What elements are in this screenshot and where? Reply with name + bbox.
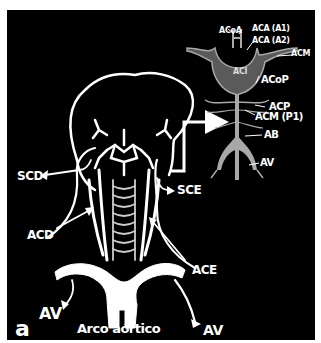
vascular-diagram [7,10,315,340]
panel-letter: a [15,318,30,340]
label-ace: ACE [192,264,217,276]
inset-connector [170,122,207,171]
diagram-frame: ACoA ACA (A1) ACA (A2) ACM ACI ACoP ACP … [7,10,315,340]
label-acm-p1: ACM (P1) [255,112,303,122]
label-sce: SCE [177,184,201,196]
label-av-inset: AV [260,158,274,168]
label-acd: ACD [27,229,54,241]
label-av-right: AV [203,323,223,337]
cerebral-vessels [93,120,171,175]
label-ab: AB [264,130,278,140]
label-acoa: ACoA [219,27,242,35]
label-acop: ACoP [261,75,288,85]
inset-pointer-arrow [205,110,229,134]
label-aci: ACI [233,68,247,76]
label-scd: SCD [17,170,43,182]
label-aca-a1: ACA (A1) [252,25,290,33]
label-aca-a2: ACA (A2) [252,37,290,45]
label-aortic-arch: Arco aórtico [77,322,160,335]
aortic-arch [55,264,185,329]
label-av-left: AV [39,306,62,322]
vertebral-ladder [113,180,135,260]
label-acm: ACM [291,50,310,58]
neck-vessels [89,170,159,260]
